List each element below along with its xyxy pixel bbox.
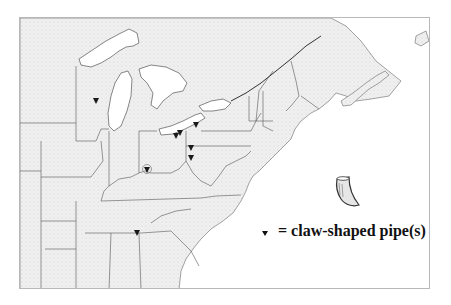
triangle-marker-icon [262, 231, 268, 236]
newfoundland [415, 31, 429, 46]
map-canvas [20, 18, 430, 289]
claw-pipe-illustration [331, 175, 365, 211]
land-mass [20, 18, 401, 289]
map-frame [19, 17, 430, 289]
legend-label: = claw-shaped pipe(s) [278, 222, 426, 240]
legend: = claw-shaped pipe(s) [262, 222, 426, 240]
